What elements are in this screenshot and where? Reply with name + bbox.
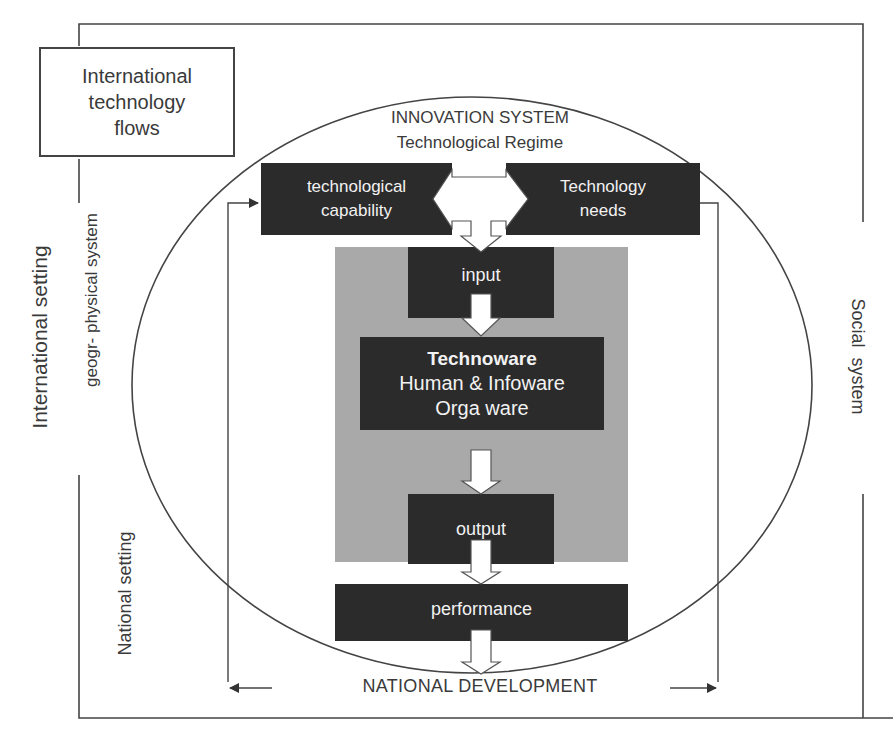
arrow-down-icon: [462, 294, 500, 336]
social-system-label: Social system: [847, 282, 868, 432]
arrow-down-icon: [462, 630, 500, 674]
national-development-label: NATIONAL DEVELOPMENT: [330, 676, 630, 697]
geo-physical-system-label: geogr- physical system: [82, 190, 102, 410]
double-arrow-t-icon: [433, 170, 528, 252]
arrow-down-icon: [462, 450, 500, 494]
international-setting-label: International setting: [28, 217, 52, 457]
national-setting-label: National setting: [115, 514, 136, 674]
arrow-down-icon: [462, 540, 500, 584]
